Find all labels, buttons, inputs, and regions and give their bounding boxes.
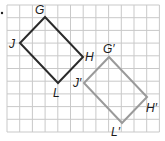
label-J-prime: J′	[72, 76, 82, 90]
rectangle-GHLJ	[20, 17, 83, 83]
label-G-prime: G′	[103, 42, 115, 56]
label-J: J	[8, 37, 16, 51]
label-L: L	[53, 86, 60, 100]
label-G: G	[35, 3, 44, 17]
coordinate-grid-diagram: G H L J G′ H′ L′ J′	[0, 0, 165, 141]
label-L-prime: L′	[111, 125, 121, 139]
rectangle-GHLJ-prime	[84, 57, 147, 123]
label-H-prime: H′	[146, 101, 158, 115]
label-H: H	[85, 50, 94, 64]
grid-lines	[7, 5, 159, 132]
problem-bullet	[1, 12, 3, 14]
